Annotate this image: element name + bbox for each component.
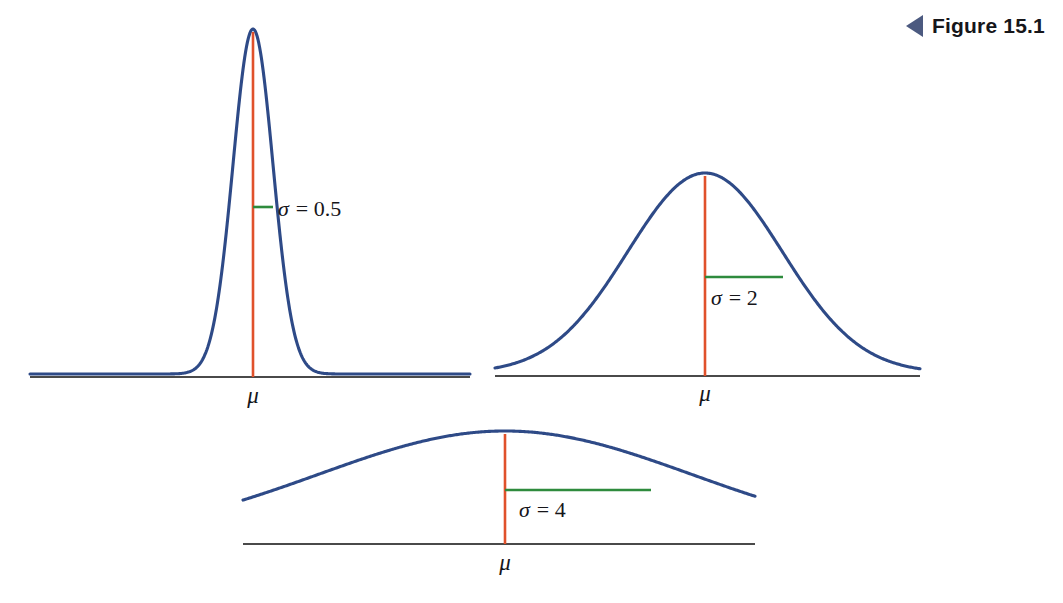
sigma-label: σ= 0.5: [278, 196, 341, 221]
normal-curve-sigma-2: [495, 173, 920, 369]
sigma-symbol: σ: [519, 497, 531, 522]
sigma-label: σ= 2: [711, 285, 758, 310]
sigma-symbol: σ: [711, 285, 723, 310]
left-triangle-icon: [906, 15, 923, 37]
panel-sigma-2: σ= 2 μ: [483, 150, 943, 400]
panel-sigma-0-5: σ= 0.5 μ: [18, 8, 488, 408]
sigma-label: σ= 4: [519, 497, 566, 522]
sigma-value: = 2: [729, 285, 758, 310]
normal-curve-sigma-4: [243, 431, 755, 500]
figure-caption: Figure 15.1: [906, 14, 1045, 38]
mean-label: μ: [698, 381, 711, 406]
figure-caption-text: Figure 15.1: [932, 14, 1045, 38]
panel-sigma-4: σ= 4 μ: [231, 418, 776, 593]
sigma-symbol: σ: [278, 196, 290, 221]
mean-label: μ: [498, 550, 511, 575]
sigma-value: = 4: [537, 497, 566, 522]
mean-label: μ: [246, 383, 259, 408]
sigma-value: = 0.5: [296, 196, 341, 221]
figure-canvas: Figure 15.1 σ= 0.5 μ σ=: [0, 0, 1063, 603]
normal-curve-sigma-0-5: [30, 29, 470, 374]
